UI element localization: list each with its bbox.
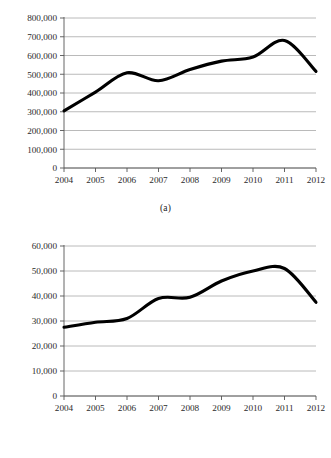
y-axis-tick-label: 200,000 bbox=[27, 126, 57, 136]
figure-two-panel-line-charts: 0100,000200,000300,000400,000500,000600,… bbox=[0, 0, 331, 458]
x-axis-tick-label: 2008 bbox=[181, 175, 200, 185]
line-chart-b: 010,00020,00030,00040,00050,00060,000200… bbox=[0, 228, 331, 428]
x-axis-tick-label: 2012 bbox=[307, 175, 326, 185]
x-axis-tick-label: 2007 bbox=[149, 175, 168, 185]
y-axis-tick-label: 20,000 bbox=[32, 341, 58, 351]
x-axis-tick-label: 2004 bbox=[55, 403, 74, 413]
y-axis-tick-label: 700,000 bbox=[27, 32, 57, 42]
y-axis-tick-label: 0 bbox=[52, 163, 57, 173]
line-chart-a: 0100,000200,000300,000400,000500,000600,… bbox=[0, 0, 331, 200]
y-axis-tick-label: 100,000 bbox=[27, 145, 57, 155]
y-axis-tick-label: 800,000 bbox=[27, 13, 57, 23]
series-line bbox=[64, 40, 316, 111]
y-axis-tick-label: 40,000 bbox=[32, 291, 58, 301]
x-axis-tick-label: 2006 bbox=[118, 403, 137, 413]
chart-b-plot-area: 010,00020,00030,00040,00050,00060,000200… bbox=[0, 228, 331, 428]
x-axis-tick-label: 2007 bbox=[149, 403, 168, 413]
x-axis-tick-label: 2005 bbox=[86, 175, 105, 185]
chart-a-plot-area: 0100,000200,000300,000400,000500,000600,… bbox=[0, 0, 331, 200]
caption-a: (a) bbox=[0, 203, 331, 213]
x-axis-tick-label: 2009 bbox=[212, 403, 231, 413]
y-axis-tick-label: 0 bbox=[52, 391, 57, 401]
x-axis-tick-label: 2004 bbox=[55, 175, 74, 185]
series-line bbox=[64, 266, 316, 327]
x-axis-tick-label: 2011 bbox=[275, 175, 293, 185]
x-axis-tick-label: 2008 bbox=[181, 403, 200, 413]
x-axis-tick-label: 2009 bbox=[212, 175, 231, 185]
y-axis-tick-label: 300,000 bbox=[27, 107, 57, 117]
x-axis-tick-label: 2011 bbox=[275, 403, 293, 413]
y-axis-tick-label: 50,000 bbox=[32, 266, 58, 276]
y-axis-tick-label: 60,000 bbox=[32, 241, 58, 251]
y-axis-tick-label: 30,000 bbox=[32, 316, 58, 326]
y-axis-tick-label: 400,000 bbox=[27, 88, 57, 98]
x-axis-tick-label: 2010 bbox=[244, 403, 263, 413]
x-axis-tick-label: 2006 bbox=[118, 175, 137, 185]
chart-panel-a: 0100,000200,000300,000400,000500,000600,… bbox=[0, 0, 331, 225]
x-axis-tick-label: 2010 bbox=[244, 175, 263, 185]
x-axis-tick-label: 2005 bbox=[86, 403, 105, 413]
chart-panel-b: 010,00020,00030,00040,00050,00060,000200… bbox=[0, 228, 331, 458]
y-axis-tick-label: 10,000 bbox=[32, 366, 58, 376]
y-axis-tick-label: 500,000 bbox=[27, 70, 57, 80]
x-axis-tick-label: 2012 bbox=[307, 403, 326, 413]
y-axis-tick-label: 600,000 bbox=[27, 51, 57, 61]
